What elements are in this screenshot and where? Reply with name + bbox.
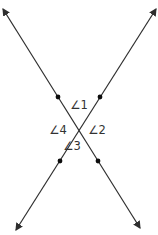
angle-2-label: ∠2	[88, 123, 106, 137]
line-topright-to-bottomleft	[16, 9, 156, 230]
geometry-diagram: ∠1∠2∠3∠4	[0, 0, 158, 235]
angle-3-label: ∠3	[63, 139, 81, 153]
line-topleft-to-bottomright	[3, 9, 140, 228]
angle-1-label: ∠1	[70, 98, 88, 112]
point-upper-right	[98, 95, 103, 100]
diagram-canvas: ∠1∠2∠3∠4	[0, 0, 158, 235]
angle-4-label: ∠4	[49, 123, 67, 137]
point-lower-left	[58, 159, 63, 164]
point-upper-left	[56, 95, 61, 100]
point-lower-right	[96, 159, 101, 164]
diagram-content: ∠1∠2∠3∠4	[3, 9, 156, 230]
